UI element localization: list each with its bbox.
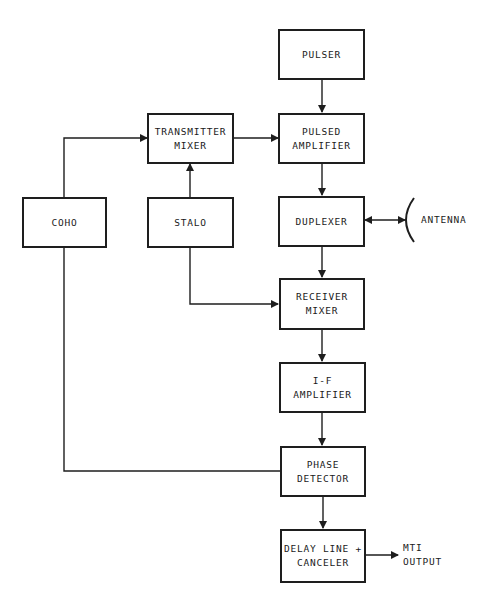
duplexer-block: DUPLEXER — [278, 196, 365, 247]
phase-detector-block: PHASE DETECTOR — [280, 446, 366, 497]
stalo-block: STALO — [147, 197, 234, 248]
coho-block: COHO — [22, 197, 107, 248]
phase-detector-label-2: DETECTOR — [297, 472, 349, 486]
delay-line-canceler-block: DELAY LINE + CANCELER — [280, 529, 366, 583]
pulsed-amplifier-block: PULSED AMPLIFIER — [278, 113, 365, 164]
antenna-icon — [406, 198, 414, 242]
transmitter-mixer-block: TRANSMITTER MIXER — [147, 113, 234, 164]
pulser-block: PULSER — [278, 29, 365, 80]
duplexer-label: DUPLEXER — [295, 215, 347, 229]
delay-line-label-2: CANCELER — [297, 556, 349, 570]
connector-lines — [0, 0, 478, 596]
pulsed-amplifier-label-2: AMPLIFIER — [292, 139, 351, 153]
mti-output-line-2: OUTPUT — [403, 555, 442, 569]
pulser-label: PULSER — [302, 48, 341, 62]
pulsed-amplifier-label-1: PULSED — [302, 125, 341, 139]
mti-output-label: MTI OUTPUT — [403, 541, 442, 569]
receiver-mixer-label-1: RECEIVER — [296, 290, 348, 304]
stalo-label: STALO — [174, 216, 207, 230]
block-diagram: PULSER PULSED AMPLIFIER TRANSMITTER MIXE… — [0, 0, 478, 596]
delay-line-label-1: DELAY LINE + — [284, 542, 362, 556]
receiver-mixer-label-2: MIXER — [306, 304, 339, 318]
transmitter-mixer-label-1: TRANSMITTER — [155, 125, 227, 139]
mti-output-line-1: MTI — [403, 541, 442, 555]
if-amplifier-label-2: AMPLIFIER — [293, 388, 352, 402]
if-amplifier-label-1: I-F — [313, 374, 333, 388]
transmitter-mixer-label-2: MIXER — [174, 139, 207, 153]
if-amplifier-block: I-F AMPLIFIER — [279, 362, 366, 413]
antenna-label: ANTENNA — [421, 213, 467, 227]
coho-label: COHO — [51, 216, 77, 230]
phase-detector-label-1: PHASE — [307, 458, 340, 472]
receiver-mixer-block: RECEIVER MIXER — [279, 278, 365, 330]
